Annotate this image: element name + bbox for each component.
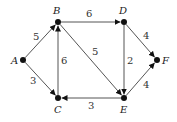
edge-weight-label: 4 — [143, 30, 149, 41]
edge-a-b — [25, 25, 56, 58]
node-label-f: F — [161, 55, 170, 66]
edge-weight-label: 5 — [33, 31, 39, 42]
node-c — [55, 95, 61, 101]
edge-b-e — [60, 24, 122, 95]
edge-weight-label: 3 — [30, 75, 36, 86]
node-label-c: C — [54, 104, 62, 115]
node-a — [20, 57, 26, 63]
node-label-d: D — [118, 5, 127, 16]
edge-weight-label: 6 — [86, 8, 92, 19]
node-label-a: A — [10, 55, 18, 66]
node-e — [121, 95, 127, 101]
node-label-e: E — [119, 104, 128, 115]
edge-e-f — [126, 63, 155, 96]
node-d — [121, 19, 127, 25]
edge-weight-label: 2 — [127, 55, 133, 66]
edges — [25, 22, 155, 98]
edge-weight-label: 4 — [143, 79, 149, 90]
edge-weight-label: 6 — [61, 55, 67, 66]
weighted-directed-graph: 536652443 ABCDEF — [0, 0, 177, 122]
edge-weight-label: 5 — [92, 46, 98, 57]
edge-d-f — [126, 24, 155, 57]
edge-weights: 536652443 — [30, 8, 149, 111]
node-f — [154, 57, 160, 63]
node-label-b: B — [52, 5, 60, 16]
node-b — [55, 19, 61, 25]
edge-weight-label: 3 — [88, 100, 94, 111]
